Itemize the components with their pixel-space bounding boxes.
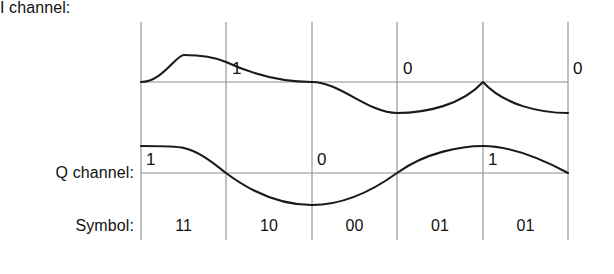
q-channel-row-label: Q channel:: [0, 165, 134, 181]
q-channel-bit-2: 1: [488, 151, 497, 168]
symbol-cell-1: 10: [226, 218, 312, 234]
i-channel-waveform: [141, 55, 568, 113]
symbol-cell-0: 11: [141, 218, 226, 234]
symbol-row-label: Symbol:: [0, 218, 134, 234]
vertical-gridlines: [141, 22, 568, 240]
q-channel-waveform: [141, 146, 568, 205]
i-channel-bit-0: 1: [232, 60, 241, 77]
i-channel-row-label: I channel:: [0, 0, 70, 16]
symbol-cell-2: 00: [312, 218, 397, 234]
symbol-cell-3: 01: [397, 218, 483, 234]
q-channel-bit-1: 0: [317, 151, 326, 168]
symbol-cell-4: 01: [483, 218, 568, 234]
q-channel-bit-0: 1: [146, 151, 155, 168]
waveform-figure: I channel: Q channel: Symbol: 1 0 0 1 0 …: [0, 0, 614, 274]
i-channel-bit-2: 0: [573, 60, 582, 77]
i-channel-bit-1: 0: [403, 60, 412, 77]
